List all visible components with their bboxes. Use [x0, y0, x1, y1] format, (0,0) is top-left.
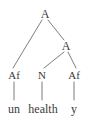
tree-node-prefix-af: Af	[8, 70, 20, 81]
tree-node-word-y: y	[71, 103, 77, 115]
tree-node-root-a: A	[41, 8, 50, 20]
syntax-tree-figure: AAAfNAfunhealthy	[0, 0, 93, 121]
tree-node-inner-a: A	[62, 40, 71, 52]
tree-edge-root-a-to-inner-a	[48, 20, 64, 40]
tree-edge-root-a-to-prefix-af	[13, 20, 42, 68]
tree-node-stem-n: N	[38, 70, 46, 81]
tree-node-word-un: un	[8, 103, 20, 115]
tree-node-suffix-af: Af	[68, 70, 80, 81]
tree-node-word-health: health	[28, 103, 57, 115]
tree-edge-inner-a-to-stem-n	[44, 52, 64, 68]
tree-edge-inner-a-to-suffix-af	[68, 52, 76, 68]
